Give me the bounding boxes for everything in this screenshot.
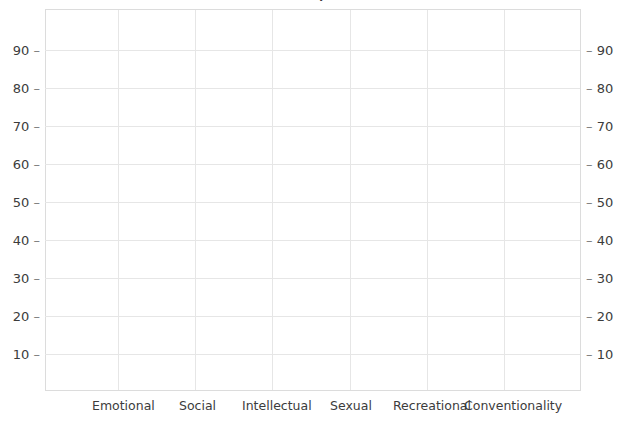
tick-value: 90: [597, 43, 614, 58]
tick-value: 40: [597, 233, 614, 248]
tick-value: 10: [597, 347, 614, 362]
vertical-gridline: [350, 9, 351, 391]
tick-mark-icon: –: [29, 81, 40, 96]
vertical-gridline: [45, 9, 46, 391]
left-axis-tick-label: 40 –: [13, 234, 40, 247]
plot-frame-edge: [45, 9, 580, 10]
vertical-gridline: [580, 9, 581, 391]
tick-value: 30: [13, 271, 30, 286]
x-axis: EmotionalSocialIntellectualSexualRecreat…: [0, 400, 621, 420]
tick-mark-icon: –: [586, 271, 597, 286]
tick-value: 70: [13, 119, 30, 134]
right-axis-tick-label: – 80: [586, 82, 613, 95]
horizontal-gridline: [45, 164, 580, 165]
left-axis-tick-label: 70 –: [13, 120, 40, 133]
tick-value: 60: [597, 157, 614, 172]
vertical-gridline: [195, 9, 196, 391]
tick-mark-icon: –: [586, 347, 597, 362]
tick-mark-icon: –: [29, 195, 40, 210]
right-axis-tick-label: – 90: [586, 44, 613, 57]
left-axis-tick-label: 50 –: [13, 196, 40, 209]
tick-value: 20: [13, 309, 30, 324]
tick-value: 60: [13, 157, 30, 172]
horizontal-gridline: [45, 354, 580, 355]
vertical-gridline: [118, 9, 119, 391]
chart-title: Relationship Profile: [0, 0, 621, 2]
horizontal-gridline: [45, 316, 580, 317]
tick-mark-icon: –: [586, 309, 597, 324]
tick-value: 10: [13, 347, 30, 362]
tick-mark-icon: –: [586, 233, 597, 248]
tick-mark-icon: –: [29, 233, 40, 248]
right-y-axis: – 90– 80– 70– 60– 50– 40– 30– 20– 10: [586, 0, 621, 429]
tick-value: 70: [597, 119, 614, 134]
x-axis-category-label: Intellectual: [242, 400, 312, 413]
horizontal-gridline: [45, 240, 580, 241]
vertical-gridline: [427, 9, 428, 391]
tick-mark-icon: –: [29, 347, 40, 362]
right-axis-tick-label: – 40: [586, 234, 613, 247]
tick-value: 80: [13, 81, 30, 96]
tick-value: 50: [597, 195, 614, 210]
left-axis-tick-label: 30 –: [13, 272, 40, 285]
right-axis-tick-label: – 70: [586, 120, 613, 133]
left-axis-tick-label: 90 –: [13, 44, 40, 57]
tick-mark-icon: –: [586, 81, 597, 96]
right-axis-tick-label: – 30: [586, 272, 613, 285]
tick-mark-icon: –: [586, 157, 597, 172]
horizontal-gridline: [45, 126, 580, 127]
x-axis-category-label: Recreational: [393, 400, 471, 413]
vertical-gridline: [272, 9, 273, 391]
left-axis-tick-label: 20 –: [13, 310, 40, 323]
tick-value: 30: [597, 271, 614, 286]
horizontal-gridline: [45, 278, 580, 279]
left-y-axis: 90 –80 –70 –60 –50 –40 –30 –20 –10 –: [0, 0, 40, 429]
left-axis-tick-label: 80 –: [13, 82, 40, 95]
left-axis-tick-label: 10 –: [13, 348, 40, 361]
plot-area: [45, 9, 580, 391]
horizontal-gridline: [45, 88, 580, 89]
tick-mark-icon: –: [29, 271, 40, 286]
right-axis-tick-label: – 10: [586, 348, 613, 361]
x-axis-category-label: Conventionality: [464, 400, 562, 413]
vertical-gridline: [504, 9, 505, 391]
tick-mark-icon: –: [586, 119, 597, 134]
tick-mark-icon: –: [29, 309, 40, 324]
tick-value: 20: [597, 309, 614, 324]
right-axis-tick-label: – 20: [586, 310, 613, 323]
horizontal-gridline: [45, 202, 580, 203]
plot-frame-edge: [45, 390, 580, 391]
horizontal-gridline: [45, 50, 580, 51]
tick-mark-icon: –: [586, 43, 597, 58]
x-axis-category-label: Emotional: [92, 400, 155, 413]
tick-value: 50: [13, 195, 30, 210]
tick-mark-icon: –: [29, 119, 40, 134]
tick-value: 80: [597, 81, 614, 96]
tick-value: 40: [13, 233, 30, 248]
right-axis-tick-label: – 60: [586, 158, 613, 171]
x-axis-category-label: Social: [179, 400, 216, 413]
tick-mark-icon: –: [586, 195, 597, 210]
right-axis-tick-label: – 50: [586, 196, 613, 209]
tick-value: 90: [13, 43, 30, 58]
x-axis-category-label: Sexual: [330, 400, 372, 413]
left-axis-tick-label: 60 –: [13, 158, 40, 171]
tick-mark-icon: –: [29, 43, 40, 58]
tick-mark-icon: –: [29, 157, 40, 172]
